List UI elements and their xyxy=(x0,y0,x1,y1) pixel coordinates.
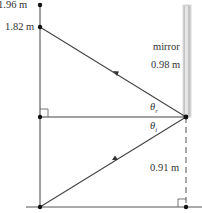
top-height-label: 1.96 m xyxy=(0,0,27,11)
theta-i-label: θi xyxy=(150,121,157,134)
feet-dot xyxy=(38,205,42,209)
reflection-point-dot xyxy=(184,115,189,120)
mirror-label: mirror xyxy=(153,42,180,53)
theta-r-label: θr xyxy=(150,102,158,115)
mirror-bottom-height-label: 0.91 m xyxy=(150,163,179,174)
mirror-base-dot xyxy=(184,205,188,209)
arrow-icon-incident xyxy=(112,156,118,161)
eye-height-label: 1.82 m xyxy=(5,22,34,33)
top-of-head-dot xyxy=(38,3,42,7)
mirror-highlight xyxy=(185,6,188,116)
normal-left-dot xyxy=(38,115,42,119)
mirror-length-label: 0.98 m xyxy=(151,60,180,71)
eye-dot xyxy=(38,25,42,29)
